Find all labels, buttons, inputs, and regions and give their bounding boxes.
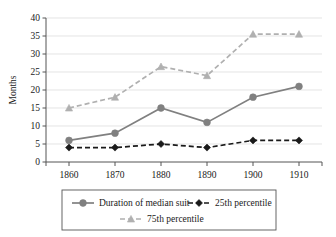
data-point <box>66 144 73 151</box>
data-point <box>66 137 73 144</box>
y-tick-label: 30 <box>31 49 41 59</box>
series-line <box>69 86 299 140</box>
series-1 <box>66 83 303 144</box>
series-line <box>69 34 299 108</box>
y-axis-title: Months <box>8 75 18 104</box>
data-point <box>204 119 211 126</box>
data-point <box>112 130 119 137</box>
data-point <box>250 94 257 101</box>
y-axis: 0510152025303540 <box>31 13 47 167</box>
y-tick-label: 25 <box>31 67 41 77</box>
x-tick-label: 1860 <box>60 170 79 180</box>
x-tick-label: 1880 <box>152 170 171 180</box>
x-tick-label: 1890 <box>198 170 217 180</box>
data-point <box>295 31 302 38</box>
legend-label: 25th percentile <box>215 198 272 208</box>
x-tick-label: 1910 <box>290 170 309 180</box>
legend-label: Duration of median suit <box>99 198 190 208</box>
chart-legend: Duration of median suit25th percentile75… <box>62 190 276 230</box>
grid-lines <box>46 18 322 144</box>
y-tick-label: 15 <box>31 103 41 113</box>
y-tick-label: 0 <box>35 157 40 167</box>
data-point <box>250 137 257 144</box>
data-point <box>158 141 165 148</box>
legend-label: 75th percentile <box>147 214 204 224</box>
data-point <box>296 83 303 90</box>
y-tick-label: 10 <box>31 121 41 131</box>
chart-container: 0510152025303540 18601870188018901900191… <box>0 0 336 237</box>
data-point <box>296 137 303 144</box>
y-tick-label: 5 <box>35 139 40 149</box>
x-tick-label: 1870 <box>106 170 125 180</box>
data-point <box>204 144 211 151</box>
y-tick-label: 20 <box>31 85 41 95</box>
series-3 <box>65 31 302 111</box>
data-series-layer <box>65 31 302 152</box>
y-axis-title-label: Months <box>8 75 18 104</box>
data-point <box>158 105 165 112</box>
legend-swatch-marker <box>80 200 87 207</box>
y-tick-label: 40 <box>31 13 41 23</box>
line-chart: 0510152025303540 18601870188018901900191… <box>0 0 336 237</box>
x-axis: 186018701880189019001910 <box>46 162 322 180</box>
y-tick-label: 35 <box>31 31 41 41</box>
x-tick-label: 1900 <box>244 170 263 180</box>
data-point <box>249 31 256 38</box>
data-point <box>112 144 119 151</box>
